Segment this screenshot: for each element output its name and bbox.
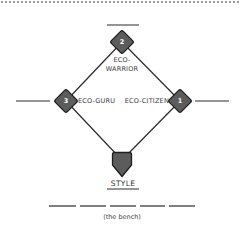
first-base-number: 1 (178, 98, 183, 105)
path-first-to-home (126, 101, 180, 156)
bench-caption: (the bench) (103, 214, 141, 221)
home-plate-label: STYLE (111, 180, 135, 188)
path-third-to-home (66, 101, 118, 156)
second-base-label-line2: WARRIOR (106, 66, 139, 73)
second-base-number: 2 (120, 39, 125, 46)
second-base-label-line1: ECO- (113, 57, 130, 64)
third-base-number: 3 (64, 98, 69, 105)
third-base-label: ECO-GURU (78, 98, 115, 105)
first-base-label: ECO-CITIZEN (125, 98, 169, 105)
baseball-diamond-diagram (0, 0, 239, 228)
home-plate-icon (113, 153, 132, 177)
